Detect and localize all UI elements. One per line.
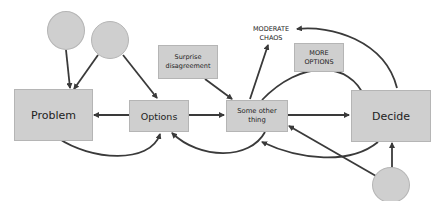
- node-problem: Problem: [14, 89, 93, 141]
- edge-someother-chaos: [250, 45, 268, 99]
- node-surprise-label: Surprise disagreement: [165, 53, 211, 71]
- edge-surprise-someother: [205, 79, 232, 99]
- node-decide-label: Decide: [372, 110, 410, 123]
- node-options: Options: [129, 100, 189, 132]
- node-decide: Decide: [351, 90, 431, 142]
- circle-top-middle: [91, 21, 129, 59]
- edge-someother-options-curve: [172, 132, 265, 153]
- edge-someother-decide-curve: [262, 70, 365, 100]
- circle-top-left: [47, 11, 85, 50]
- node-more-options-label: MORE OPTIONS: [301, 49, 337, 67]
- edge-circle1-problem: [66, 50, 70, 88]
- node-surprise-disagreement: Surprise disagreement: [158, 45, 218, 79]
- node-options-label: Options: [141, 111, 178, 122]
- node-some-other-label: Some other thing: [235, 107, 279, 125]
- circle-bottom-right: [372, 167, 410, 201]
- node-some-other-thing: Some other thing: [226, 100, 288, 132]
- moderate-chaos-text: MODERATE CHAOS: [253, 25, 289, 42]
- edge-circle2-problem: [74, 55, 98, 89]
- edge-circle2-options: [123, 55, 157, 98]
- node-more-options: MORE OPTIONS: [294, 43, 344, 72]
- moderate-chaos-label: MODERATE CHAOS: [246, 25, 296, 43]
- node-problem-label: Problem: [31, 109, 76, 122]
